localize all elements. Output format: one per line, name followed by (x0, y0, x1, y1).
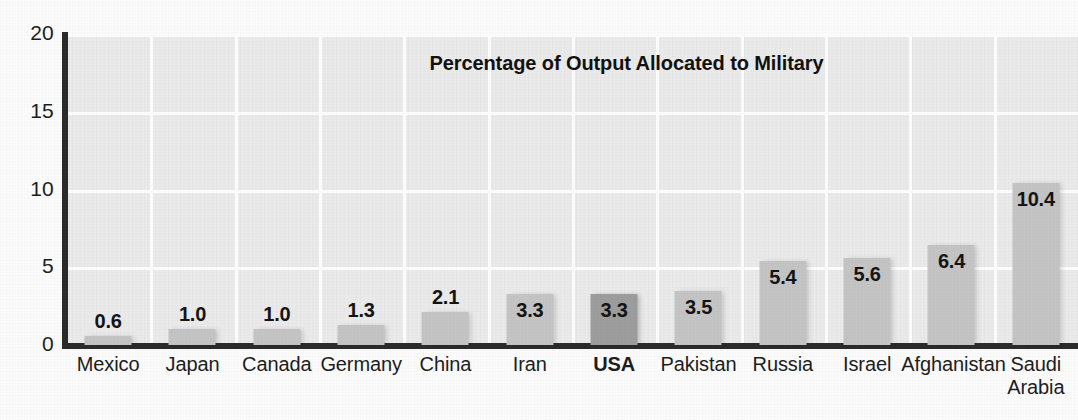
bar-value-label: 3.3 (516, 299, 543, 322)
bar-group: 5.6 (825, 34, 909, 345)
bar (338, 325, 385, 345)
bar-value-label: 1.0 (263, 303, 290, 326)
y-axis-tick-label: 0 (8, 332, 54, 356)
bar-group: 2.1 (403, 34, 487, 345)
bar (85, 336, 132, 345)
bar-value-label: 5.6 (854, 263, 881, 286)
bar (422, 312, 469, 345)
bar-value-label: 3.5 (685, 296, 712, 319)
bar-value-label: 2.1 (432, 286, 459, 309)
y-axis-tick-label: 15 (8, 99, 54, 123)
bar-chart: Percentage of Output Allocated to Milita… (0, 0, 1078, 420)
bar (253, 329, 300, 345)
bar-value-label: 3.3 (601, 299, 628, 322)
bar-group: 5.4 (741, 34, 825, 345)
bar-group: 3.3 (572, 34, 656, 345)
bar-value-label: 5.4 (769, 266, 796, 289)
bar-group: 3.5 (656, 34, 740, 345)
bar-group: 3.3 (488, 34, 572, 345)
bar-group: 10.4 (994, 34, 1078, 345)
bar-group: 0.6 (66, 34, 150, 345)
bar (169, 329, 216, 345)
bar-value-label: 1.3 (348, 299, 375, 322)
bar-value-label: 1.0 (179, 303, 206, 326)
chart-title: Percentage of Output Allocated to Milita… (0, 52, 1078, 75)
bar-group: 1.3 (319, 34, 403, 345)
y-axis-tick-label: 5 (8, 254, 54, 278)
y-axis-tick-label: 20 (8, 21, 54, 45)
x-axis-label: Saudi Arabia (986, 353, 1078, 399)
bar-value-label: 10.4 (1017, 188, 1055, 211)
bar-group: 1.0 (150, 34, 234, 345)
bar-group: 6.4 (909, 34, 993, 345)
y-axis-tick-label: 10 (8, 177, 54, 201)
bar-value-label: 6.4 (938, 250, 965, 273)
bar-group: 1.0 (235, 34, 319, 345)
bar-value-label: 0.6 (95, 310, 122, 333)
